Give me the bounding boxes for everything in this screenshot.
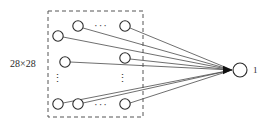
network-diagram: ······ ⋮⋮ 28×28 1 (0, 0, 265, 127)
input-node-r1c4 (120, 21, 130, 31)
input-dimension-label: 28×28 (10, 58, 36, 69)
arrowhead-group (223, 66, 232, 74)
figure-canvas: ······ ⋮⋮ 28×28 1 (0, 0, 265, 127)
ellipsis-top: ··· (94, 19, 108, 31)
arrowhead-icon (223, 66, 232, 74)
input-node-group (53, 21, 130, 109)
edge-input-node-r2c1-to-output (63, 37, 232, 70)
input-node-r5c2 (73, 99, 83, 109)
input-node-r5c4 (120, 99, 130, 109)
ellipsis-bottom: ··· (94, 98, 108, 110)
vertical-ellipsis-left: ⋮ (52, 72, 63, 84)
edge-input-node-r3c4-to-output (130, 59, 232, 70)
edge-input-node-r5c4-to-output (130, 70, 232, 103)
edge-input-node-r1c4-to-output (130, 28, 232, 70)
input-node-r3c4 (120, 53, 130, 63)
edge-group (63, 28, 232, 103)
input-node-r3c1 (60, 57, 70, 67)
output-count-label: 1 (253, 65, 258, 75)
vertical-ellipsis-group: ⋮⋮ (52, 72, 128, 84)
output-node-group (233, 63, 247, 77)
vertical-ellipsis-right: ⋮ (117, 72, 128, 84)
output-node (233, 63, 247, 77)
input-node-r1c2 (73, 21, 83, 31)
input-node-r2c1 (53, 31, 63, 41)
input-node-r5c1 (53, 99, 63, 109)
edge-input-node-r5c1-to-output (63, 70, 232, 103)
